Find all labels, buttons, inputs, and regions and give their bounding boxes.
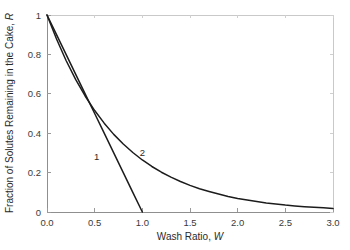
- y-tick-label: 0.6: [28, 88, 41, 99]
- x-tick-label: 2.0: [231, 217, 244, 228]
- x-tick-label: 2.5: [279, 217, 292, 228]
- x-tick-label: 3.0: [326, 217, 339, 228]
- y-tick-label: 0: [36, 207, 41, 218]
- x-tick-label: 0.5: [88, 217, 101, 228]
- y-tick-label: 0.2: [28, 167, 41, 178]
- x-tick-label: 0.0: [40, 217, 53, 228]
- x-tick-label: 1.0: [136, 217, 149, 228]
- x-axis-title: Wash Ratio, W: [157, 231, 225, 242]
- chart-canvas: 0.00.51.01.52.02.53.0 00.20.40.60.81 12 …: [0, 0, 350, 250]
- y-tick-label: 1: [36, 10, 41, 21]
- chart-figure: 0.00.51.01.52.02.53.0 00.20.40.60.81 12 …: [0, 0, 350, 250]
- y-tick-label: 0.8: [28, 49, 41, 60]
- y-tick-label: 0.4: [28, 128, 41, 139]
- curve-label-1: 1: [94, 151, 99, 162]
- x-tick-label: 1.5: [183, 217, 196, 228]
- y-axis-title: Fraction of Solutes Remaining in the Cak…: [4, 13, 15, 213]
- curve-label-2: 2: [140, 147, 145, 158]
